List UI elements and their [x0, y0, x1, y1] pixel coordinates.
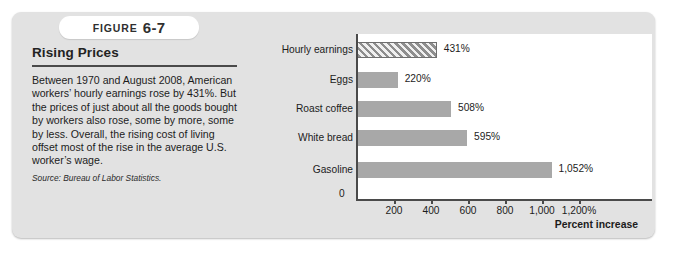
- category-label-white-bread: White bread: [298, 132, 353, 143]
- chart-y-axis: [356, 34, 358, 200]
- x-axis-tick-label: 1,000: [529, 205, 555, 216]
- bar-value-label: 595%: [474, 131, 500, 142]
- bar-white-bread: [357, 130, 467, 146]
- chart-x-axis: [356, 199, 652, 201]
- x-axis-tick: [394, 199, 396, 204]
- category-label-gasoline: Gasoline: [313, 164, 353, 175]
- bar-roast-coffee: [357, 101, 451, 117]
- x-axis-tick: [505, 199, 507, 204]
- figure-badge-word: FIGURE: [93, 22, 138, 34]
- figure-badge: FIGURE 6-7: [59, 16, 199, 39]
- figure-panel: FIGURE 6-7 Rising Prices Between 1970 an…: [12, 12, 655, 238]
- bar-row: 431%: [357, 42, 652, 58]
- category-label-eggs: Eggs: [330, 74, 353, 85]
- x-axis-tick: [431, 199, 433, 204]
- x-axis-tick-label: 400: [423, 205, 440, 216]
- bar-value-label: 508%: [458, 102, 484, 113]
- x-axis-tick-label: 800: [497, 205, 514, 216]
- x-axis-tick-label: 600: [460, 205, 477, 216]
- category-label-hourly-earnings: Hourly earnings: [282, 44, 353, 55]
- x-axis-tick-label: 1,200%: [562, 205, 597, 216]
- bar-value-label: 220%: [405, 73, 431, 84]
- bar-row: 220%: [357, 72, 652, 88]
- chart-bars: 431%220%508%595%1,052%: [357, 34, 652, 199]
- x-axis-tick-label: 200: [386, 205, 403, 216]
- x-axis-tick: [579, 199, 581, 204]
- figure-text-column: Rising Prices Between 1970 and August 20…: [32, 45, 237, 183]
- figure-source: Source: Bureau of Labor Statistics.: [32, 173, 237, 183]
- title-divider: [32, 65, 237, 67]
- chart-plot-area: 431%220%508%595%1,052%: [357, 34, 652, 199]
- bar-hourly-earnings: [357, 42, 437, 58]
- chart-category-labels: Hourly earningsEggsRoast coffeeWhite bre…: [257, 34, 353, 199]
- bar-eggs: [357, 72, 398, 88]
- bar-value-label: 1,052%: [559, 163, 594, 174]
- x-axis-tick: [542, 199, 544, 204]
- bar-row: 595%: [357, 130, 652, 146]
- category-label-roast-coffee: Roast coffee: [296, 103, 353, 114]
- x-axis-tick: [468, 199, 470, 204]
- bar-value-label: 431%: [444, 43, 470, 54]
- figure-badge-number: 6-7: [143, 19, 166, 36]
- chart-zero-label: 0: [339, 188, 345, 199]
- bar-row: 508%: [357, 101, 652, 117]
- figure-body-text: Between 1970 and August 2008, American w…: [32, 74, 237, 168]
- chart-x-axis-title: Percent increase: [555, 219, 638, 230]
- bar-gasoline: [357, 162, 552, 178]
- bar-row: 1,052%: [357, 162, 652, 178]
- figure-title: Rising Prices: [32, 45, 237, 60]
